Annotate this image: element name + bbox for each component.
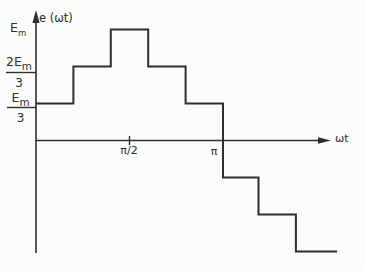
x-axis-arrow-icon [318, 137, 331, 144]
waveform-plot [0, 0, 366, 271]
base: E [14, 54, 22, 69]
y-tick-label-em: Em [10, 22, 26, 37]
fraction-denominator: 3 [6, 112, 35, 124]
y-tick-label-em3: Em 3 [6, 92, 35, 124]
subscript: m [22, 60, 32, 72]
fraction-numerator: 2Em [3, 56, 35, 71]
coef: 2 [6, 54, 14, 69]
em-base: E [10, 20, 18, 35]
x-tick-label-half-pi: π/2 [117, 145, 141, 156]
fraction-denominator: 3 [3, 77, 35, 89]
x-tick-label-pi: π [206, 146, 222, 157]
y-tick-label-2em3: 2Em 3 [3, 56, 35, 89]
y-axis-title: e (ωt) [39, 13, 73, 25]
x-axis-title: ωt [335, 133, 349, 144]
fraction-numerator: Em [6, 92, 35, 107]
waveform-figure: e (ωt) ωt Em 2Em 3 Em 3 π/2 π [0, 0, 366, 271]
em-subscript: m [18, 28, 26, 38]
subscript: m [19, 96, 29, 108]
